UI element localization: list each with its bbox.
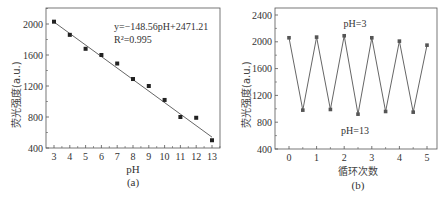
x-tick-label: 10 <box>160 151 170 162</box>
chart-canvas: 400800120016002000 345678910111213 y=−14… <box>0 0 444 198</box>
panel-a-y-ticks: 400800120016002000 <box>23 9 49 154</box>
panel-a-x-axis-label: pH <box>126 163 140 175</box>
figure: 400800120016002000 345678910111213 y=−14… <box>0 0 444 198</box>
data-point <box>329 108 333 112</box>
data-point <box>194 116 198 120</box>
panel-a-y-axis-label: 荧光强度(a.u.) <box>10 61 22 128</box>
data-point <box>425 43 429 47</box>
data-point <box>84 47 88 51</box>
y-tick-label: 2000 <box>23 19 43 30</box>
x-tick-label: 2 <box>342 152 347 163</box>
panel-b-ph13-annotation: pH=13 <box>341 125 369 136</box>
panel-b-y-axis-label: 荧光强度(a.u.) <box>240 61 252 128</box>
y-tick-label: 400 <box>257 144 272 155</box>
x-tick-label: 4 <box>397 152 402 163</box>
data-point <box>163 98 167 102</box>
x-tick-label: 1 <box>314 152 319 163</box>
panel-a-label: (a) <box>127 176 140 189</box>
x-tick-label: 7 <box>115 151 120 162</box>
y-tick-label: 400 <box>28 143 43 154</box>
data-point <box>398 39 402 43</box>
x-tick-label: 0 <box>287 152 292 163</box>
x-tick-label: 3 <box>369 152 374 163</box>
x-tick-label: 13 <box>207 151 217 162</box>
panel-b-cycle-line <box>289 36 427 114</box>
panel-b-y-ticks: 4008001200160020002400 <box>252 10 278 155</box>
panel-b-label: (b) <box>352 179 365 192</box>
y-tick-label: 800 <box>28 112 43 123</box>
x-tick-label: 4 <box>67 151 72 162</box>
x-tick-label: 9 <box>146 151 151 162</box>
x-tick-label: 6 <box>99 151 104 162</box>
data-point <box>287 36 291 40</box>
y-tick-label: 1600 <box>252 63 272 74</box>
x-tick-label: 5 <box>425 152 430 163</box>
x-tick-label: 3 <box>52 151 57 162</box>
data-point <box>68 33 72 37</box>
y-tick-label: 1600 <box>23 50 43 61</box>
data-point <box>52 20 56 24</box>
data-point <box>370 36 374 40</box>
y-tick-label: 2000 <box>252 36 272 47</box>
y-tick-label: 1200 <box>23 81 43 92</box>
panel-a-equation-annotation: y=−148.56pH+2471.21 <box>114 21 208 32</box>
panel-b-ph3-annotation: pH=3 <box>344 18 367 29</box>
panel-b-x-ticks: 012345 <box>287 146 430 163</box>
panel-b-x-axis-label: 循环次数 <box>338 165 378 177</box>
panel-a-x-ticks: 345678910111213 <box>52 145 220 162</box>
data-point <box>131 77 135 81</box>
panel-b-chart: 4008001200160020002400 012345 pH=3 pH=13… <box>240 8 437 192</box>
data-point <box>301 108 305 112</box>
y-tick-label: 800 <box>257 117 272 128</box>
panel-a-r2-annotation: R²=0.995 <box>114 34 152 45</box>
data-point <box>356 112 360 116</box>
panel-a-chart: 400800120016002000 345678910111213 y=−14… <box>10 8 220 189</box>
data-point <box>210 138 214 142</box>
y-tick-label: 2400 <box>252 10 272 21</box>
data-point <box>178 115 182 119</box>
data-point <box>115 62 119 66</box>
data-point <box>315 35 319 39</box>
data-point <box>99 53 103 57</box>
data-point <box>147 84 151 88</box>
x-tick-label: 5 <box>83 151 88 162</box>
x-tick-label: 12 <box>191 151 201 162</box>
data-point <box>411 110 415 114</box>
panel-b-data-points <box>287 34 429 116</box>
y-tick-label: 1200 <box>252 90 272 101</box>
data-point <box>342 34 346 38</box>
data-point <box>384 110 388 114</box>
x-tick-label: 8 <box>131 151 136 162</box>
x-tick-label: 11 <box>176 151 186 162</box>
